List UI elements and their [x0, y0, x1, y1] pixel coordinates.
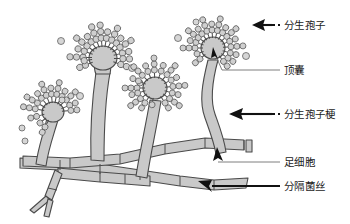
- label-vesicle: 顶囊: [284, 64, 305, 76]
- label-septate-hypha: 分隔菌丝: [284, 180, 325, 192]
- conidiophore-head-1: [19, 79, 84, 166]
- leader-conidiophore: [229, 108, 280, 120]
- leader-conidia: [252, 19, 280, 31]
- label-texts: 分生孢子 顶囊 分生孢子梗 足细胞 分隔菌丝: [284, 19, 336, 192]
- label-conidiophore: 分生孢子梗: [284, 108, 336, 120]
- label-conidia: 分生孢子: [284, 19, 325, 31]
- aspergillus-diagram: 分生孢子 顶囊 分生孢子梗 足细胞 分隔菌丝: [0, 0, 350, 224]
- conidiophore-head-4: [180, 15, 250, 154]
- label-foot-cell: 足细胞: [284, 156, 316, 168]
